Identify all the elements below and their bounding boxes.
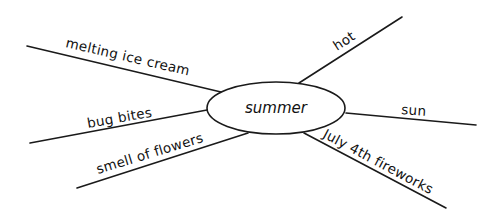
spoke-label: July 4th fireworks bbox=[320, 125, 437, 197]
spoke-line bbox=[304, 133, 446, 208]
spoke-melting-ice-cream: melting ice cream bbox=[27, 34, 221, 92]
spoke-line bbox=[299, 17, 402, 83]
spoke-july-4th-fireworks: July 4th fireworks bbox=[304, 125, 446, 208]
spoke-label: sun bbox=[401, 101, 427, 119]
spoke-label: melting ice cream bbox=[64, 34, 191, 78]
spider-map: melting ice creamhotsunJuly 4th firework… bbox=[0, 0, 497, 223]
center-node-label: summer bbox=[245, 99, 308, 117]
spider-map-canvas: melting ice creamhotsunJuly 4th firework… bbox=[0, 0, 497, 223]
spoke-label: hot bbox=[330, 28, 358, 54]
spoke-hot: hot bbox=[299, 17, 402, 83]
spoke-smell-of-flowers: smell of flowers bbox=[77, 129, 248, 188]
spoke-sun: sun bbox=[346, 101, 476, 125]
